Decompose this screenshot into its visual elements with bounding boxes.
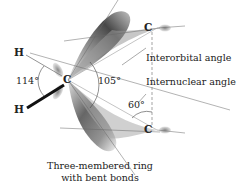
atom-c-bottom-right: C [144,124,152,135]
atom-c-left: C [63,74,71,85]
caption-line-1: Three-membered ring [40,160,160,172]
angle-hch: 114° [16,76,39,86]
atom-h-bottom: H [14,104,24,115]
caption-line-2: with bent bonds [40,172,160,184]
atom-c-top-right: C [144,22,152,33]
caption: Three-membered ring with bent bonds [40,160,160,184]
angle-internuclear: 60° [128,100,145,110]
label-internuclear: Internuclear angle [146,77,236,87]
angle-interorbital: 105° [98,76,121,86]
label-interorbital: Interorbital angle [146,53,231,63]
atom-h-top: H [14,47,24,58]
bent-bond-diagram: H H C C C 114° 105° 60° Interorbital ang… [0,0,242,188]
